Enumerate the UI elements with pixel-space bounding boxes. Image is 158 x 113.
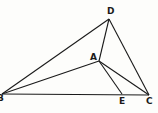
geometry-diagram: DABEC [0, 0, 158, 113]
point-label-B: B [0, 93, 4, 103]
point-label-C: C [146, 96, 153, 106]
segment-BC [2, 94, 149, 95]
segment-AC [99, 61, 149, 95]
segment-BA [2, 61, 99, 94]
point-label-E: E [119, 96, 125, 106]
diagram-canvas: DABEC [0, 0, 158, 113]
point-label-A: A [90, 52, 97, 62]
point-label-D: D [107, 6, 114, 16]
segment-AE [99, 61, 122, 94]
